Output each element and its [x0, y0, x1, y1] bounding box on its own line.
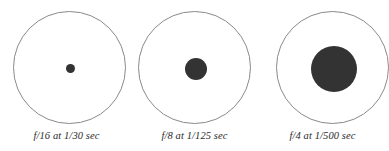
aperture-group-f4: f/4 at 1/500 sec	[262, 0, 383, 151]
lens-barrel-circle	[13, 11, 126, 124]
lens-barrel-circle	[276, 11, 389, 124]
aperture-group-f8: f/8 at 1/125 sec	[133, 0, 256, 151]
aperture-opening-disc	[311, 46, 357, 92]
aperture-caption: f/4 at 1/500 sec	[262, 129, 383, 142]
aperture-opening-disc	[66, 64, 75, 73]
lens-barrel-circle	[138, 11, 251, 124]
aperture-group-f16: f/16 at 1/30 sec	[6, 0, 127, 151]
aperture-opening-disc	[185, 58, 207, 80]
aperture-caption: f/8 at 1/125 sec	[133, 129, 256, 142]
aperture-caption: f/16 at 1/30 sec	[6, 129, 127, 142]
